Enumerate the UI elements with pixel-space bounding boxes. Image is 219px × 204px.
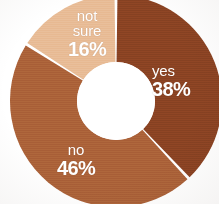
slice-percent-no: 46% (33, 158, 119, 178)
slice-category-yes: yes (152, 63, 219, 78)
slice-category-not-sure: not sure (52, 8, 122, 38)
slice-percent-not-sure: 16% (52, 39, 122, 59)
slice-category-not-sure-line2: sure (52, 23, 122, 38)
slice-label-no: no 46% (33, 142, 119, 178)
slice-category-no: no (33, 142, 119, 157)
slice-label-not-sure: not sure 16% (52, 8, 122, 59)
donut-hole (77, 62, 155, 140)
donut-chart: yes 38% no 46% not sure 16% (0, 0, 219, 204)
slice-label-yes: yes 38% (152, 63, 219, 99)
slice-percent-yes: 38% (152, 79, 219, 99)
